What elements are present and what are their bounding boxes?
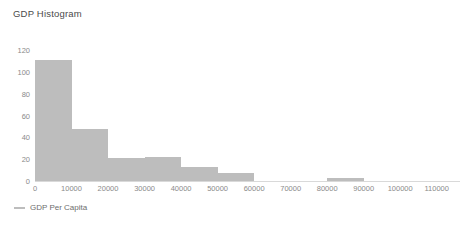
x-axis-tick-label: 70000 <box>280 184 301 193</box>
plot-area <box>35 50 455 181</box>
y-axis-tick-label: 120 <box>17 46 30 55</box>
chart-title: GDP Histogram <box>13 8 82 19</box>
y-axis-tick-label: 40 <box>22 133 30 142</box>
x-axis-tick-label: 20000 <box>98 184 119 193</box>
legend-line-icon <box>14 207 25 209</box>
x-axis-tick-label: 50000 <box>207 184 228 193</box>
y-axis-tick-label: 20 <box>22 155 30 164</box>
x-axis-tick-label: 90000 <box>353 184 374 193</box>
histogram-bar <box>72 129 109 181</box>
y-axis-tick-label: 0 <box>26 177 30 186</box>
histogram-bar <box>327 178 364 181</box>
legend-item-label: GDP Per Capita <box>30 203 87 212</box>
chart-legend: GDP Per Capita <box>14 203 87 212</box>
x-axis-tick-label: 80000 <box>317 184 338 193</box>
histogram-bar <box>218 173 255 181</box>
x-axis-tick-label: 40000 <box>171 184 192 193</box>
x-axis-tick-label: 0 <box>33 184 37 193</box>
x-axis-line <box>35 181 460 182</box>
x-axis-tick-label: 60000 <box>244 184 265 193</box>
histogram-bar <box>181 167 218 181</box>
histogram-bar <box>35 60 72 181</box>
x-axis-tick-label: 30000 <box>134 184 155 193</box>
x-axis-tick-label: 10000 <box>61 184 82 193</box>
y-axis: 020406080100120 <box>0 50 30 181</box>
y-axis-tick-label: 100 <box>17 67 30 76</box>
y-axis-tick-label: 60 <box>22 111 30 120</box>
histogram-bar <box>108 158 145 181</box>
gdp-histogram-chart: GDP Histogram 020406080100120 0100002000… <box>0 0 467 226</box>
x-axis-tick-label: 110000 <box>424 184 448 193</box>
x-axis-tick-label: 100000 <box>388 184 413 193</box>
histogram-bar <box>145 157 182 181</box>
y-axis-tick-label: 80 <box>22 89 30 98</box>
